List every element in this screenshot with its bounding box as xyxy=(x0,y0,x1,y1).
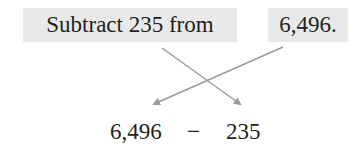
crossing-arrows xyxy=(0,0,355,151)
minuend: 6,496 xyxy=(110,118,162,146)
minus-sign: − xyxy=(187,118,200,146)
subtrahend: 235 xyxy=(226,118,261,146)
